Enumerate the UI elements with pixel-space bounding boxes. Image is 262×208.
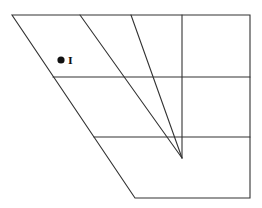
point-label: I — [68, 55, 73, 66]
point-marker — [57, 56, 64, 63]
geometry-diagram: I — [0, 0, 262, 208]
trapezoid-outline — [12, 15, 250, 198]
